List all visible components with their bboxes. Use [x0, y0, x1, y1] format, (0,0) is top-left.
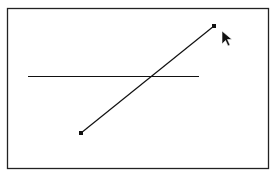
- line-start-handle[interactable]: [79, 131, 83, 135]
- drawing-canvas[interactable]: [0, 0, 272, 175]
- canvas-frame: [8, 9, 269, 169]
- line-end-handle[interactable]: [212, 24, 216, 28]
